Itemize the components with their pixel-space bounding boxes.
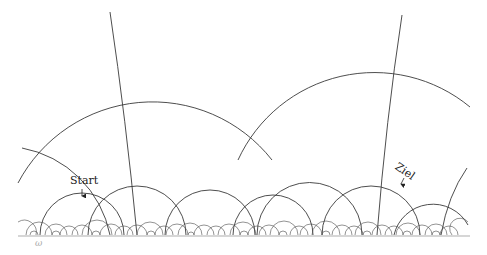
start-label: Start: [70, 174, 98, 187]
geodesic-lines: [110, 12, 467, 235]
boundary-omega-label: ω: [35, 238, 42, 248]
tessellation-diagram: [0, 0, 487, 255]
large-arcs: [18, 73, 470, 235]
medium-arcs: [40, 183, 468, 236]
